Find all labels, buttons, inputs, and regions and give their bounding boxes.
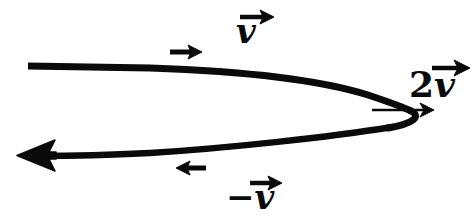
label-v-text: v [236,14,256,48]
label-v: v [236,14,256,48]
label-2v: 2v [409,66,455,102]
right-arrow-marker [170,45,202,59]
trajectory-arrowhead [17,140,56,171]
velocity-vector-figure: v 2v −v [0,0,474,220]
label-negative-v-text: v [255,180,275,214]
label-2v-coefficient: 2 [409,66,434,102]
left-arrow-marker [176,161,206,175]
trajectory-cusp [388,111,415,128]
trajectory-upper-branch [28,66,411,111]
label-negative-v: −v [226,180,274,214]
label-negative-v-sign: − [226,180,255,214]
trajectory-lower-branch [40,127,392,156]
label-2v-text: v [434,66,455,102]
